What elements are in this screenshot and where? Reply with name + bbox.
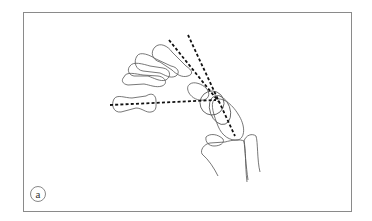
panel-label: a <box>30 186 46 202</box>
metacarpal-bone-5 <box>113 94 156 112</box>
wrist-diagram <box>0 0 372 221</box>
scaphoid-bone <box>212 99 243 140</box>
metacarpal-bone-2 <box>135 54 178 77</box>
lunate-bone <box>205 92 234 127</box>
metacarpal-axis-line-2 <box>188 35 235 136</box>
radius-epiphysis <box>206 135 224 146</box>
radius-bone <box>201 140 247 182</box>
metacarpal-axis-line-1 <box>169 40 219 102</box>
